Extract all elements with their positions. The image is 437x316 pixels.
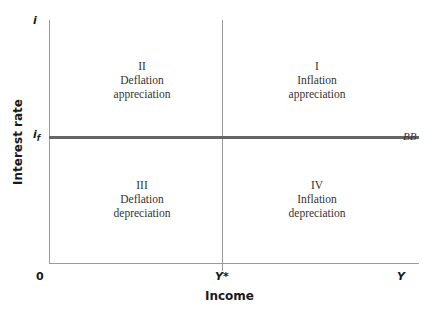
- quadrant-4: IVInflationdepreciation: [262, 178, 372, 220]
- quadrant-2: IIDeflationappreciation: [87, 59, 197, 101]
- y-axis: [49, 20, 50, 264]
- ystar-tick: Y*: [215, 270, 229, 283]
- x-axis: [49, 263, 419, 264]
- y-if-tick: if: [33, 128, 40, 143]
- x-end-tick: Y: [397, 270, 405, 283]
- bb-label: BB: [403, 130, 416, 142]
- full-employment-line: [222, 20, 223, 271]
- x-axis-label: Income: [205, 289, 254, 303]
- origin-tick: 0: [36, 270, 44, 283]
- y-top-tick: i: [33, 14, 37, 27]
- quadrant-3: IIIDeflationdepreciation: [87, 178, 197, 220]
- y-axis-label: Interest rate: [11, 99, 25, 185]
- quadrant-1: IInflationappreciation: [262, 59, 372, 101]
- bb-curve: [49, 136, 419, 139]
